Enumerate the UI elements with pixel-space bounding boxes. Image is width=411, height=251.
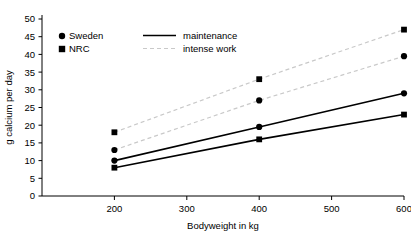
calcium-requirement-chart: 05101520253035404550200300400500600Bodyw…	[0, 0, 411, 251]
y-tick-label: 0	[30, 190, 35, 201]
data-point-square	[256, 136, 262, 142]
data-point-square	[112, 165, 118, 171]
data-point-circle	[256, 124, 262, 130]
data-point-square	[401, 27, 407, 33]
data-point-square	[256, 76, 262, 82]
data-point-circle	[111, 158, 117, 164]
x-tick-label: 200	[106, 203, 122, 214]
y-tick-label: 5	[30, 173, 35, 184]
x-axis-title: Bodyweight in kg	[187, 220, 259, 231]
y-tick-label: 35	[24, 67, 35, 78]
y-tick-label: 30	[24, 84, 35, 95]
x-tick-label: 300	[179, 203, 195, 214]
legend-circle-marker-icon	[59, 33, 65, 39]
y-tick-label: 20	[24, 120, 35, 131]
y-tick-label: 10	[24, 155, 35, 166]
y-tick-label: 45	[24, 31, 35, 42]
chart-canvas: 05101520253035404550200300400500600Bodyw…	[0, 0, 411, 251]
y-tick-label: 50	[24, 13, 35, 24]
y-axis-title: g calcium per day	[3, 70, 14, 145]
x-tick-label: 600	[396, 203, 411, 214]
legend-label-sweden: Sweden	[69, 30, 103, 41]
y-tick-label: 40	[24, 49, 35, 60]
data-point-circle	[256, 97, 262, 103]
legend-label-nrc: NRC	[69, 43, 90, 54]
x-tick-label: 500	[324, 203, 340, 214]
x-tick-label: 400	[251, 203, 267, 214]
legend-label-intense-work: intense work	[183, 43, 237, 54]
legend-label-maintenance: maintenance	[183, 30, 237, 41]
data-point-circle	[401, 53, 407, 59]
data-point-circle	[111, 147, 117, 153]
data-point-circle	[401, 90, 407, 96]
y-tick-label: 15	[24, 137, 35, 148]
data-point-square	[401, 112, 407, 118]
data-point-square	[112, 129, 118, 135]
legend-square-marker-icon	[59, 46, 65, 52]
y-tick-label: 25	[24, 102, 35, 113]
